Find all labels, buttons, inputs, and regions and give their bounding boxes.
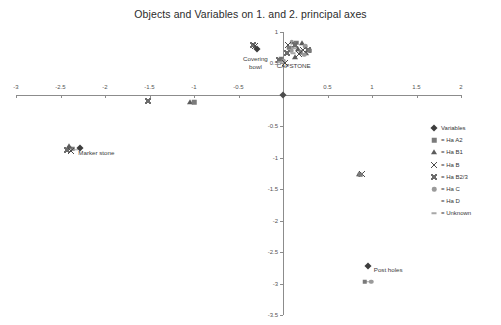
scatter-plot: Objects and Variables on 1. and 2. princ… [0,0,501,325]
x-tick-label: -1 [191,84,196,90]
y-tick-label: -1 [273,155,278,161]
legend-item[interactable]: = Ha B2/3 [428,171,500,183]
y-tick-label: -3.5 [268,312,278,318]
legend-square-icon [428,134,440,146]
y-tick [280,158,283,159]
page-title: Objects and Variables on 1. and 2. princ… [0,8,501,20]
legend-dash-icon [428,207,440,219]
data-point-circle [369,279,374,284]
x-tick-label: -3 [13,84,18,90]
x-tick-label: 2 [459,84,462,90]
data-point-square [307,49,312,54]
legend-item[interactable]: = Unknown [428,207,500,219]
x-tick [194,95,195,98]
x-tick [417,95,418,98]
x-tick [105,95,106,98]
x-tick-label: 0.5 [323,84,331,90]
y-tick-label: 1 [275,29,278,35]
legend-item-label: = Ha B [441,162,460,168]
legend-item[interactable]: = Ha A2 [428,134,500,146]
y-tick-label: -1.5 [268,186,278,192]
x-tick [61,95,62,98]
y-tick [280,126,283,127]
y-tick-label: -3 [273,281,278,287]
point-label: Coveringbowl [243,55,268,71]
x-tick-label: -2 [102,84,107,90]
legend-item[interactable]: = Ha D [428,195,500,207]
legend-item[interactable]: = Ha B1 [428,146,500,158]
legend-plus-icon [428,195,440,207]
legend-item-label: = Ha C [441,186,460,192]
data-point-square [192,100,197,105]
x-tick [328,95,329,98]
legend-item-label: = Unknown [441,210,471,216]
y-tick [280,32,283,33]
data-point-square [358,173,363,178]
legend-item-label: = Ha A2 [441,137,463,143]
data-point-plus [300,54,306,60]
chart-legend: Variables= Ha A2= Ha B1= Ha B= Ha B2/3= … [428,122,500,220]
legend-bowtie-icon [428,171,440,183]
x-tick-label: 1.5 [412,84,420,90]
data-point-diamond [365,262,372,269]
point-label: CAPSTONE [277,62,311,70]
legend-item[interactable]: = Ha B [428,159,500,171]
data-point-triangle [292,54,298,59]
data-point-bowtie [284,50,290,56]
legend-triangle-icon [428,146,440,158]
y-tick [280,189,283,190]
x-tick [239,95,240,98]
x-tick-label: -2.5 [55,84,65,90]
legend-circle-icon [428,183,440,195]
x-tick [16,95,17,98]
data-point-square [363,279,368,284]
x-tick [372,95,373,98]
legend-diamond-icon [428,122,440,134]
origin-marker [279,91,286,98]
y-axis [283,32,284,315]
point-label: Marker stone [78,149,114,157]
x-tick-label: -0.5 [233,84,243,90]
y-tick-label: -2 [273,218,278,224]
y-tick [280,252,283,253]
legend-item-label: Variables [441,125,466,131]
legend-item-label: = Ha D [441,198,460,204]
legend-item[interactable]: = Ha C [428,183,500,195]
x-tick [461,95,462,98]
point-label: Post holes [374,266,403,274]
data-point-bowtie [145,98,151,104]
legend-item-label: = Ha B1 [441,149,463,155]
legend-item[interactable]: Variables [428,122,500,134]
y-tick [280,221,283,222]
y-tick [280,315,283,316]
legend-item-label: = Ha B2/3 [441,174,468,180]
y-tick-label: -2.5 [268,249,278,255]
x-tick-label: 1 [370,84,373,90]
x-tick-label: -1.5 [144,84,154,90]
data-point-diamond [254,45,261,52]
y-tick [280,284,283,285]
legend-cross-icon [428,159,440,171]
y-tick-label: -0.5 [268,123,278,129]
